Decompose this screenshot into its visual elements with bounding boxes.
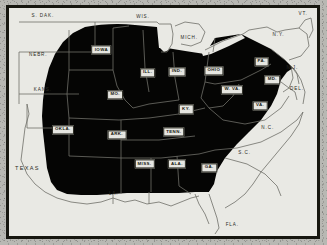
map-frame-border: IOWAILL.IND.OHIOPA.MO.W. VA.MD.VA.KY.ARK… [6, 5, 320, 239]
map-figure: IOWAILL.IND.OHIOPA.MO.W. VA.MD.VA.KY.ARK… [0, 0, 327, 245]
map-canvas [9, 8, 317, 236]
map-geometry [9, 8, 317, 236]
